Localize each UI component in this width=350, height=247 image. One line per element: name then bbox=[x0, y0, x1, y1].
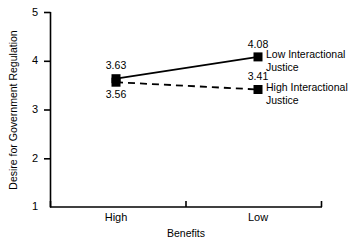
x-tick-label-low: Low bbox=[228, 212, 288, 224]
data-label-high-justice-high-benefits: 3.56 bbox=[98, 89, 134, 100]
y-axis-title: Desire for Government Regulation bbox=[8, 15, 19, 205]
series-line-low-interactional-justice bbox=[116, 57, 258, 79]
marker-low-justice-low-benefits bbox=[254, 52, 263, 61]
marker-high-justice-low-benefits bbox=[254, 85, 263, 94]
legend-label-high-interactional-justice: High Interactional Justice bbox=[266, 81, 350, 107]
marker-high-justice-high-benefits bbox=[112, 78, 121, 87]
x-axis-title: Benefits bbox=[141, 228, 231, 239]
figure-container: 5 4 3 2 1 Desire for Government Regulati… bbox=[0, 0, 350, 247]
chart-canvas bbox=[0, 0, 350, 247]
y-tick-label-3: 3 bbox=[24, 104, 38, 116]
y-tick-label-2: 2 bbox=[24, 153, 38, 165]
x-tick-label-high: High bbox=[86, 212, 146, 224]
legend-high-justice-line2: Justice bbox=[266, 94, 299, 106]
series-line-high-interactional-justice bbox=[116, 82, 258, 89]
legend-low-justice-line2: Justice bbox=[266, 61, 299, 73]
y-tick-label-1: 1 bbox=[24, 201, 38, 213]
y-tick-label-5: 5 bbox=[24, 7, 38, 19]
legend-high-justice-line1: High Interactional bbox=[266, 81, 348, 93]
data-label-low-justice-high-benefits: 3.63 bbox=[98, 60, 134, 71]
legend-low-justice-line1: Low Interactional bbox=[266, 48, 345, 60]
y-tick-label-4: 4 bbox=[24, 55, 38, 67]
legend-label-low-interactional-justice: Low Interactional Justice bbox=[266, 48, 350, 74]
